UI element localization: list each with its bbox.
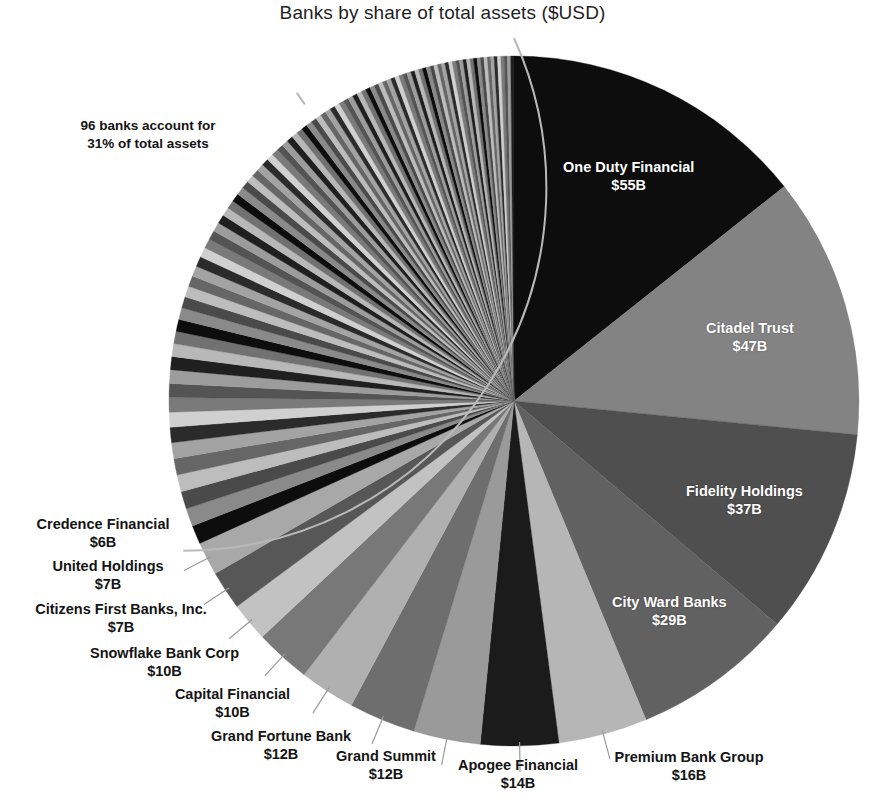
- slice-label-name: City Ward Banks: [612, 594, 727, 610]
- slice-label-fidelity-holdings: Fidelity Holdings$37B: [686, 483, 803, 518]
- pie-chart-figure: Banks by share of total assets ($USD) On…: [0, 0, 885, 806]
- slice-label-one-duty-financial: One Duty Financial$55B: [563, 159, 694, 194]
- slice-label-name: Premium Bank Group: [614, 749, 763, 765]
- slice-label-citadel-trust: Citadel Trust$47B: [706, 320, 794, 355]
- slice-label-value: $55B: [563, 177, 694, 195]
- slice-label-name: United Holdings: [52, 558, 163, 574]
- leader-line: [229, 619, 252, 638]
- slice-label-value: $14B: [443, 775, 593, 793]
- callout-annotation: 96 banks account for 31% of total assets: [38, 117, 258, 152]
- callout-annotation-line2: 31% of total assets: [38, 135, 258, 153]
- slice-label-name: Capital Financial: [175, 686, 290, 702]
- slice-label-value: $12B: [196, 746, 366, 764]
- slice-label-premium-bank-group: Premium Bank Group$16B: [599, 749, 779, 784]
- slice-label-united-holdings: United Holdings$7B: [28, 558, 188, 593]
- slice-label-grand-fortune-bank: Grand Fortune Bank$12B: [196, 728, 366, 763]
- leader-line: [313, 688, 329, 713]
- slice-label-credence-financial: Credence Financial$6B: [19, 516, 187, 551]
- callout-annotation-line1: 96 banks account for: [80, 118, 215, 133]
- slice-label-name: Apogee Financial: [458, 757, 578, 773]
- slice-label-value: $37B: [686, 501, 803, 519]
- slice-label-value: $12B: [322, 766, 450, 784]
- slice-label-city-ward-banks: City Ward Banks$29B: [612, 594, 727, 629]
- slice-label-value: $29B: [612, 612, 727, 630]
- slice-label-value: $7B: [28, 576, 188, 594]
- slice-label-name: Snowflake Bank Corp: [90, 645, 239, 661]
- slice-label-value: $10B: [74, 663, 255, 681]
- slice-label-name: Grand Fortune Bank: [211, 728, 351, 744]
- leader-line: [265, 654, 285, 676]
- slice-label-value: $10B: [162, 704, 303, 722]
- slice-label-name: Citadel Trust: [706, 320, 794, 336]
- slice-label-name: Credence Financial: [37, 516, 170, 532]
- pie-slice-group: [169, 56, 859, 746]
- slice-label-value: $16B: [599, 767, 779, 785]
- callout-notch: [297, 93, 305, 104]
- slice-label-value: $6B: [19, 534, 187, 552]
- slice-label-value: $7B: [14, 619, 228, 637]
- slice-label-name: One Duty Financial: [563, 159, 694, 175]
- slice-label-apogee-financial: Apogee Financial$14B: [443, 757, 593, 792]
- leader-line: [372, 716, 383, 744]
- slice-label-capital-financial: Capital Financial$10B: [162, 686, 303, 721]
- slice-label-snowflake-bank-corp: Snowflake Bank Corp$10B: [74, 645, 255, 680]
- slice-label-name: Citizens First Banks, Inc.: [35, 601, 207, 617]
- slice-label-citizens-first-banks-inc-: Citizens First Banks, Inc.$7B: [14, 601, 228, 636]
- slice-label-value: $47B: [706, 338, 794, 356]
- slice-label-name: Fidelity Holdings: [686, 483, 803, 499]
